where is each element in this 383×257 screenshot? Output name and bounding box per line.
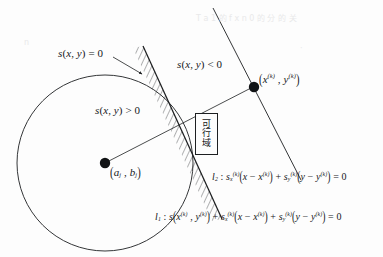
label-point-k: (x(k) , y(k)): [259, 73, 300, 85]
radius-segment: [105, 88, 251, 163]
feasible-region-callout: 可 行 域: [195, 113, 218, 155]
label-line-l1: l1 : s(x(k) , y(k)) + sx(k)(x − x(k)) + …: [155, 212, 342, 223]
label-line-l2: l2 : sx(k)(x − x(k)) + sy(k)(y − y(k)) =…: [212, 172, 347, 183]
label-constraint-zero: s(x, y) = 0: [58, 48, 103, 59]
label-constraint-negative: s(x, y) < 0: [177, 59, 222, 70]
figure-canvas: s(x, y) = 0 s(x, y) < 0 s(x, y) > 0 (x(k…: [0, 0, 383, 257]
line-l2: [213, 8, 301, 180]
circle-center-dot: [100, 158, 110, 168]
feasible-char-3: 域: [202, 139, 211, 148]
scan-bleed-3: ·: [300, 44, 303, 53]
scan-bleed-1: T a 1 的 f x n 0 的 分 的 关: [196, 12, 297, 23]
point-k-dot: [249, 82, 259, 92]
label-circle-center: (aj , bj): [110, 167, 141, 179]
scan-bleed-2: n: [24, 38, 29, 47]
callout-arrow: [113, 57, 142, 74]
label-constraint-positive: s(x, y) > 0: [95, 105, 140, 116]
